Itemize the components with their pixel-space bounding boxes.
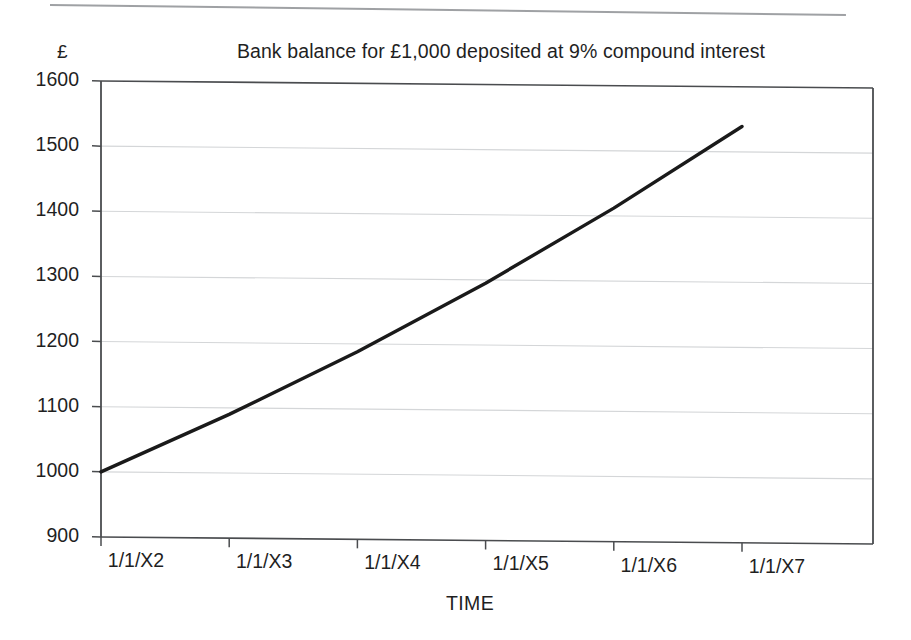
chart-figure: £ Bank balance for £1,000 deposited at 9… <box>0 0 911 640</box>
y-tick-label: 1200 <box>13 329 79 352</box>
x-tick-label: 1/1/X7 <box>717 555 837 578</box>
y-tick-label: 1600 <box>13 68 79 91</box>
y-tick-marks <box>92 81 101 537</box>
y-tick-label: 1300 <box>13 263 79 286</box>
y-tick-label: 900 <box>13 524 79 547</box>
y-tick-label: 1100 <box>13 394 79 417</box>
data-series-line <box>101 127 742 472</box>
x-tick-label: 1/1/X5 <box>461 552 581 575</box>
y-tick-label: 1000 <box>13 459 79 482</box>
x-tick-label: 1/1/X6 <box>589 554 709 577</box>
y-tick-label: 1500 <box>13 133 79 156</box>
x-axis-title: TIME <box>405 592 535 615</box>
y-tick-label: 1400 <box>13 198 79 221</box>
x-tick-label: 1/1/X4 <box>332 551 452 574</box>
plot-area <box>0 0 911 640</box>
gridlines-group <box>101 81 873 544</box>
x-tick-label: 1/1/X3 <box>204 550 324 573</box>
plot-frame <box>101 81 873 544</box>
x-tick-label: 1/1/X2 <box>76 549 196 572</box>
